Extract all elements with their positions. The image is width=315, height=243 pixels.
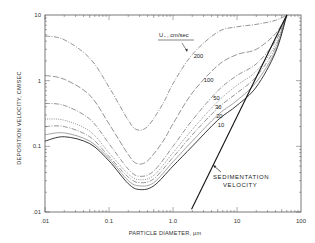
axis-tick-labels: .010.11.010100.010.1110	[33, 12, 307, 224]
curve-sedimentation-velocity	[192, 15, 287, 209]
y-tick-label: 10	[34, 12, 41, 18]
x-tick-label: 10	[234, 218, 241, 224]
x-tick-label: 1.0	[169, 218, 178, 224]
x-axis-title: PARTICLE DIAMETER, μm	[129, 230, 202, 236]
plot-border	[45, 15, 301, 212]
x-tick-label: 0.1	[105, 218, 114, 224]
curve-label-50: 50	[213, 95, 219, 101]
sedimentation-label-line1: SEDIMENTATION	[213, 174, 269, 180]
legend-title: U * , cm/sec	[158, 32, 194, 52]
curve-label-30: 30	[215, 104, 221, 110]
curve-label-200: 200	[194, 53, 204, 59]
curve-lowest	[45, 15, 287, 190]
curve-label-20: 20	[216, 113, 222, 119]
curve-50	[45, 15, 287, 176]
curve-label-100: 100	[204, 77, 214, 83]
legend-title-u: U	[159, 32, 163, 38]
legend-title-sub: *	[164, 35, 166, 40]
sedimentation-label-line2: VELOCITY	[223, 182, 257, 188]
data-curves	[45, 15, 287, 209]
y-tick-label: .01	[33, 209, 42, 215]
legend-title-rest: , cm/sec	[167, 32, 189, 38]
deposition-velocity-chart: .010.11.010100.010.1110 20010050302010 U…	[0, 0, 315, 243]
axis-ticks	[45, 15, 301, 212]
y-tick-label: 1	[38, 78, 42, 84]
x-tick-label: 100	[296, 218, 307, 224]
y-axis-title: DEPOSITION VELOCITY, CM/SEC	[16, 71, 22, 164]
plot-frame	[45, 15, 301, 212]
curve-label-10: 10	[218, 122, 224, 128]
curve-10	[45, 15, 287, 186]
sedimentation-label: SEDIMENTATION VELOCITY	[213, 165, 269, 188]
x-tick-label: .01	[41, 218, 50, 224]
legend-arrowhead-icon	[185, 49, 188, 52]
y-tick-label: 0.1	[33, 143, 42, 149]
